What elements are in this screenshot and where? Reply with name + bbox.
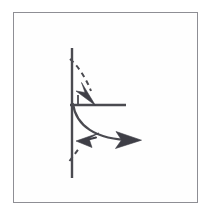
figure-container bbox=[0, 0, 211, 217]
figure-drawing bbox=[0, 0, 211, 217]
dashed-curve-arrowhead-icon bbox=[76, 83, 96, 106]
